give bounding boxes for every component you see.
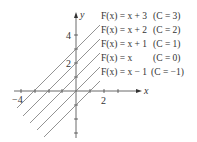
legend-label-c1: F(x) = x + 1 <box>101 39 147 50</box>
curve-c1 <box>30 53 100 123</box>
x-axis-label: x <box>143 85 149 96</box>
tick-label-x-2: 2 <box>101 95 106 106</box>
y-axis-arrow-icon <box>74 12 78 18</box>
legend-c-c0: (C = 0) <box>153 53 181 64</box>
curve-c0 <box>37 67 100 130</box>
legend-label-c3: F(x) = x + 3 <box>101 11 147 22</box>
curve-c2 <box>23 39 100 116</box>
curve-c3 <box>17 25 100 108</box>
legend-label-cm1: F(x) = x − 1 <box>101 67 147 78</box>
y-axis-label: y <box>79 9 85 20</box>
x-axis-arrow-icon <box>136 89 142 93</box>
legend-c-cm1: (C = −1) <box>151 67 184 78</box>
tick-label-y-2: 2 <box>66 58 71 69</box>
legend-c-c3: (C = 3) <box>153 11 181 22</box>
tick-label-y-4: 4 <box>66 30 71 41</box>
tick-label-x-neg4: −4 <box>12 94 23 105</box>
legend: F(x) = x + 3 (C = 3) F(x) = x + 2 (C = 2… <box>101 11 184 78</box>
legend-c-c1: (C = 1) <box>153 39 181 50</box>
legend-c-c2: (C = 2) <box>153 25 181 36</box>
legend-label-c2: F(x) = x + 2 <box>101 25 147 36</box>
curve-cm1 <box>44 81 100 137</box>
legend-label-c0: F(x) = x <box>101 53 132 64</box>
chart: x y −4 2 2 4 F(x) = x + 3 (C = 3) F(x) =… <box>0 0 197 142</box>
curves <box>17 25 100 137</box>
